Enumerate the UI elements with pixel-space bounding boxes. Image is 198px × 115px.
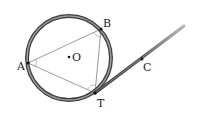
geometry-diagram: A B T C O xyxy=(0,0,198,115)
label-C: C xyxy=(143,61,151,74)
label-O: O xyxy=(72,51,81,64)
angle-arc-B xyxy=(94,32,100,37)
point-O xyxy=(68,56,71,59)
point-C xyxy=(141,58,144,61)
angle-arc-A xyxy=(35,59,36,66)
tangent-line-highlight xyxy=(95,26,184,93)
label-B: B xyxy=(103,17,111,30)
label-A: A xyxy=(16,60,26,73)
point-A xyxy=(26,61,29,64)
label-T: T xyxy=(97,97,105,110)
point-T xyxy=(93,91,96,94)
segment-AB xyxy=(28,29,101,63)
